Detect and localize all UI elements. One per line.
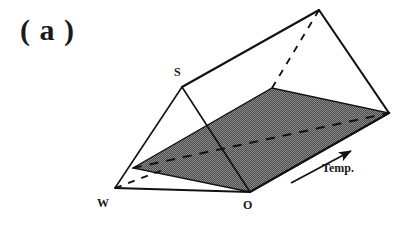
vertex-label-s: S bbox=[174, 65, 181, 80]
edge-s-to-back-apex bbox=[182, 10, 319, 87]
vertex-label-o: O bbox=[243, 198, 252, 213]
panel-label: ( a ) bbox=[20, 13, 75, 47]
temperature-axis-label: Temp. bbox=[322, 161, 354, 176]
figure-container: ( a ) S W O Temp. bbox=[0, 0, 411, 226]
edge-back-apex-to-right-vertex bbox=[319, 10, 389, 113]
vertex-label-w: W bbox=[97, 196, 109, 211]
edge-w-to-o bbox=[115, 188, 250, 192]
hidden-edge-from-w bbox=[115, 170, 163, 188]
hidden-edge-back-apex-to-plane bbox=[272, 10, 319, 88]
